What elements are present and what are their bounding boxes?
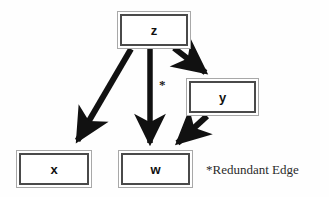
edge-y-to-w [178,116,208,143]
node-y-frame: y [189,81,256,113]
node-w-frame: w [121,153,190,185]
node-x-label: x [50,163,57,176]
redundant-edge-marker: * [159,78,166,91]
node-w-label: w [150,163,160,176]
legend-redundant-edge: *Redundant Edge [206,163,299,176]
edge-z-to-y [174,48,206,73]
diagram-canvas: z y x w * *Redundant Edge [0,0,329,197]
node-y-label: y [219,91,226,104]
node-z-label: z [151,24,158,37]
node-x[interactable]: x [16,150,92,188]
node-x-frame: x [19,153,89,185]
node-w[interactable]: w [118,150,193,188]
node-y[interactable]: y [186,78,259,116]
node-z-frame: z [120,14,188,46]
node-z[interactable]: z [117,11,191,49]
edge-z-to-x [78,49,132,141]
